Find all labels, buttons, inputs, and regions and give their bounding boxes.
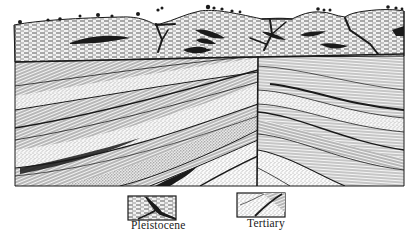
pleistocene-cover <box>14 5 404 62</box>
legend-swatch-tertiary <box>237 193 285 217</box>
tertiary-right-limb <box>258 52 404 186</box>
fault-line <box>257 56 258 186</box>
geologic-cross-section <box>0 0 413 236</box>
legend-swatch-pleistocene <box>128 196 176 220</box>
legend-label-pleistocene: Pleistocene <box>131 219 186 231</box>
tertiary-left-limb <box>15 56 258 186</box>
legend-label-tertiary: Tertiary <box>247 217 285 229</box>
